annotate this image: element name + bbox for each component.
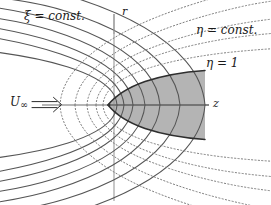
xi-curve: [0, 105, 117, 157]
r-axis-label: r: [122, 6, 127, 17]
eta-const-label: η = const.: [196, 24, 257, 36]
u-symbol: U: [10, 95, 20, 109]
focus-point: [108, 104, 111, 107]
xi-const-label: ξ = const.: [24, 10, 85, 22]
eta-one-label: η = 1: [206, 57, 239, 69]
parabolic-coordinates-figure: ξ = const. η = const. η = 1 r z U∞: [0, 0, 271, 205]
z-axis-label: z: [213, 98, 219, 109]
infinity-subscript: ∞: [20, 99, 28, 110]
freestream-velocity-label: U∞: [10, 96, 28, 109]
